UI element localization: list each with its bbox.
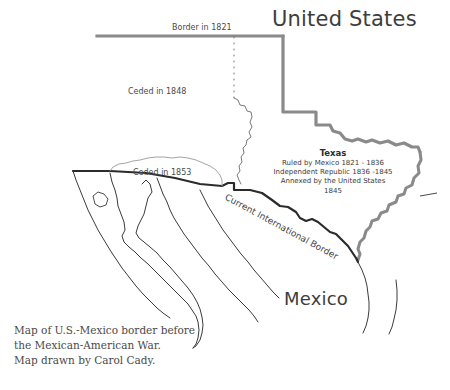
map-canvas: United States Mexico Border in 1821 Cede… [0, 0, 450, 390]
label-united-states: United States [272, 6, 417, 32]
mexico-eastern-interior-line [389, 280, 397, 334]
label-mexico: Mexico [284, 288, 348, 311]
texas-title: Texas [272, 148, 394, 158]
map-caption: Map of U.S.-Mexico border before the Mex… [14, 323, 195, 369]
texas-annotation-block: Texas Ruled by Mexico 1821 - 1836 Indepe… [272, 148, 394, 196]
gulf-coast-inlet [420, 193, 437, 196]
mexico-pacific-coast [73, 171, 170, 318]
mexico-interior-detail [93, 192, 108, 207]
rio-grande-texas-western-boundary [234, 98, 252, 184]
label-ceded-in-1848: Ceded in 1848 [128, 87, 186, 97]
caption-line-2: the Mexican-American War. [14, 338, 195, 353]
texas-fact-annexed: Annexed by the United States 1845 [272, 177, 394, 195]
texas-fact-ruled-by-mexico: Ruled by Mexico 1821 - 1836 [272, 159, 394, 168]
label-border-in-1821: Border in 1821 [172, 23, 232, 33]
texas-fact-independent-republic: Independent Republic 1836 -1845 [272, 168, 394, 177]
caption-line-3: Map drawn by Carol Cady. [14, 353, 195, 368]
caption-line-1: Map of U.S.-Mexico border before [14, 323, 195, 338]
mexico-gulf-coast [358, 262, 369, 333]
texas-1821-eastern-boundary [283, 36, 420, 152]
baja-california-west-outline [110, 173, 199, 348]
label-ceded-in-1853: Ceded in 1853 [133, 168, 191, 178]
